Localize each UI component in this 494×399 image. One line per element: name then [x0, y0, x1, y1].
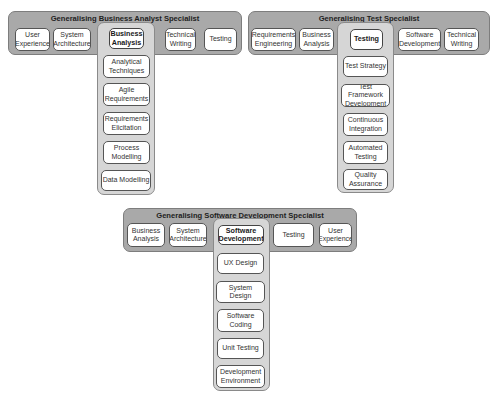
skill-business-analysis[interactable]: Business Analysis — [299, 28, 334, 51]
skill-system-architecture[interactable]: System Architecture — [53, 28, 91, 51]
sub-skill-test-framework-development[interactable]: Test Framework Development — [341, 84, 390, 107]
skill-system-architecture[interactable]: System Architecture — [169, 223, 207, 247]
skill-business-analysis[interactable]: Business Analysis — [127, 223, 165, 247]
skill-requirements-engineering[interactable]: Requirements Engineering — [251, 28, 296, 51]
sub-skill-data-modelling[interactable]: Data Modelling — [101, 170, 151, 191]
sub-skill-ux-design[interactable]: UX Design — [217, 253, 264, 274]
sub-skill-analytical-techniques[interactable]: Analytical Techniques — [103, 55, 150, 78]
skill-technical-writing[interactable]: Technical Writing — [165, 28, 196, 51]
sub-skill-system-design[interactable]: System Design — [216, 281, 265, 303]
sub-skill-process-modelling[interactable]: Process Modelling — [103, 141, 150, 164]
sub-skill-test-strategy[interactable]: Test Strategy — [343, 56, 388, 77]
skill-software-development[interactable]: Software Development — [398, 28, 441, 51]
sub-skill-requirements-elicitation[interactable]: Requirements Elicitation — [103, 112, 150, 135]
skill-user-experience[interactable]: User Experience — [15, 28, 50, 51]
sub-skill-unit-testing[interactable]: Unit Testing — [217, 338, 264, 359]
skill-user-experience[interactable]: User Experience — [319, 223, 352, 247]
sub-skill-continuous-integration[interactable]: Continuous Integration — [343, 113, 388, 136]
skill-testing[interactable]: Testing — [204, 28, 237, 51]
skill-testing-selected[interactable]: Testing — [350, 29, 383, 50]
sub-skill-quality-assurance[interactable]: Quality Assurance — [343, 169, 388, 190]
skill-business-analysis-selected[interactable]: Business Analysis — [109, 28, 144, 49]
sub-skill-automated-testing[interactable]: Automated Testing — [343, 141, 388, 164]
skill-software-development-selected[interactable]: Software Development — [218, 225, 264, 245]
skill-technical-writing[interactable]: Technical Writing — [444, 28, 479, 51]
sub-skill-software-coding[interactable]: Software Coding — [217, 309, 264, 332]
sub-skill-agile-requirements[interactable]: Agile Requirements — [103, 83, 150, 106]
sub-skill-development-environment[interactable]: Development Environment — [216, 365, 265, 388]
skill-testing[interactable]: Testing — [273, 223, 314, 247]
